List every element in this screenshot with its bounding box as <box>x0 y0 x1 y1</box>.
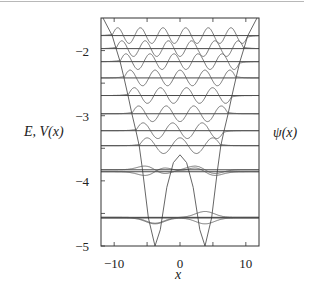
wavefunction-curve <box>101 123 259 139</box>
plot-frame <box>101 18 259 246</box>
wavefunction-curve <box>101 218 259 224</box>
wavefunction-curve <box>101 212 259 224</box>
x-axis-label: x <box>174 267 182 282</box>
potential-curve <box>103 18 257 246</box>
y-tick-label: −3 <box>75 109 89 124</box>
energy-level-chart: −10010−5−4−3−2 E, V(x) ψ(x) x <box>0 0 313 296</box>
plot-area <box>101 18 259 246</box>
y-tick-label: −4 <box>75 174 89 189</box>
y-tick-label: −2 <box>75 44 89 59</box>
psi-axis-label: ψ(x) <box>273 125 298 141</box>
y-axis-label: E, V(x) <box>23 124 64 140</box>
y-tick-label: −5 <box>75 239 89 254</box>
x-tick-label: −10 <box>104 256 124 271</box>
x-tick-label: 10 <box>239 256 252 271</box>
